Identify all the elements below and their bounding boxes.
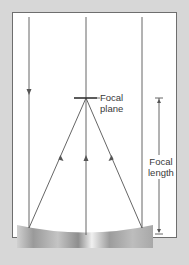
dimension-arrow-top-icon	[157, 99, 161, 103]
focal-length-label: Focal length	[148, 155, 174, 179]
focal-plane-label-line2: plane	[100, 103, 123, 114]
reflected-ray-left	[29, 98, 86, 228]
up-arrow-icon	[84, 155, 89, 161]
reflected-ray-right	[86, 98, 142, 228]
down-arrow-icon	[27, 89, 32, 95]
mirror-diagram	[0, 0, 189, 265]
focal-plane-label-line1: Focal	[100, 92, 123, 103]
incoming-rays	[29, 17, 142, 235]
reflected-rays	[29, 98, 142, 228]
focal-length-label-line2: length	[148, 167, 174, 178]
dimension-arrow-bottom-icon	[157, 229, 161, 233]
focal-length-label-line1: Focal	[148, 156, 174, 167]
focal-plane-label: Focal plane	[100, 92, 123, 114]
concave-mirror	[17, 225, 153, 248]
